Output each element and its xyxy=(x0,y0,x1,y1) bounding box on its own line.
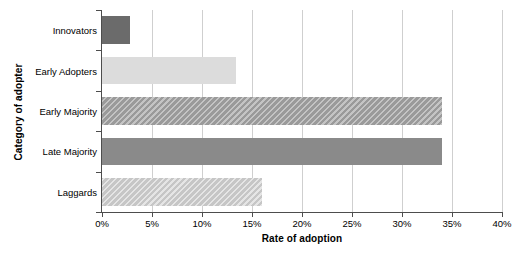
x-tick-mark xyxy=(152,212,153,217)
bar-late-majority xyxy=(102,138,442,165)
x-tick-label-40pct: 40% xyxy=(492,218,511,229)
x-tick-mark xyxy=(402,212,403,217)
x-axis-title: Rate of adoption xyxy=(102,233,502,244)
x-tick-label-30pct: 30% xyxy=(392,218,411,229)
x-tick-mark xyxy=(102,212,103,217)
y-tick-mark xyxy=(96,91,102,92)
y-tick-label-innovators: Innovators xyxy=(0,25,97,36)
x-tick-mark xyxy=(502,212,503,217)
bar-chart: Category of adopter InnovatorsEarly Adop… xyxy=(0,0,518,256)
x-tick-label-35pct: 35% xyxy=(442,218,461,229)
x-tick-mark xyxy=(202,212,203,217)
y-tick-label-laggards: Laggards xyxy=(0,186,97,197)
x-tick-mark xyxy=(302,212,303,217)
y-tick-label-early-adopters: Early Adopters xyxy=(0,65,97,76)
bar-early-adopters xyxy=(102,57,236,84)
bar-early-majority xyxy=(102,97,442,124)
bar-innovators xyxy=(102,16,130,43)
gridline-40pct xyxy=(502,10,503,212)
x-tick-label-20pct: 20% xyxy=(292,218,311,229)
x-tick-mark xyxy=(252,212,253,217)
x-tick-label-0pct: 0% xyxy=(95,218,109,229)
x-tick-label-15pct: 15% xyxy=(242,218,261,229)
x-tick-mark xyxy=(352,212,353,217)
gridline-35pct xyxy=(452,10,453,212)
y-axis-tick-labels: InnovatorsEarly AdoptersEarly MajorityLa… xyxy=(0,10,97,212)
x-tick-label-5pct: 5% xyxy=(145,218,159,229)
x-tick-label-25pct: 25% xyxy=(342,218,361,229)
y-tick-label-late-majority: Late Majority xyxy=(0,146,97,157)
plot-area xyxy=(102,10,502,212)
x-tick-label-10pct: 10% xyxy=(192,218,211,229)
y-tick-mark xyxy=(96,131,102,132)
y-tick-label-early-majority: Early Majority xyxy=(0,106,97,117)
x-tick-mark xyxy=(452,212,453,217)
y-tick-mark xyxy=(96,172,102,173)
y-tick-mark xyxy=(96,10,102,11)
y-tick-mark xyxy=(96,50,102,51)
bar-laggards xyxy=(102,178,262,205)
